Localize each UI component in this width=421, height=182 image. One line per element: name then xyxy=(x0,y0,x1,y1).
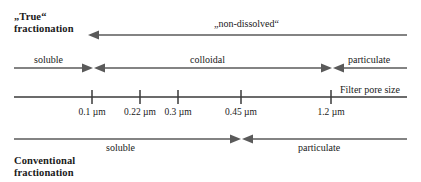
true-fractionation-title-line2: fractionation xyxy=(14,23,74,35)
segment-label-soluble-true: soluble xyxy=(34,54,63,66)
conventional-axis-line xyxy=(14,135,407,144)
filter-pore-size-caption: Filter pore size xyxy=(340,84,400,96)
true-fractionation-title: „True“ fractionation xyxy=(14,11,74,35)
non-dissolved-label: „non-dissolved“ xyxy=(214,18,279,30)
segment-label-particulate-conventional: particulate xyxy=(298,142,340,154)
tick-label-0-3: 0.3 µm xyxy=(154,107,202,118)
tick-label-0-1: 0.1 µm xyxy=(68,107,116,118)
segment-label-soluble-conventional: soluble xyxy=(106,142,135,154)
segment-label-particulate-true: particulate xyxy=(348,54,390,66)
conventional-fractionation-title: Conventional fractionation xyxy=(14,155,75,179)
fractionation-diagram: „True“ fractionation „non-dissolved“ sol… xyxy=(0,0,421,182)
segment-label-colloidal: colloidal xyxy=(190,54,225,66)
conventional-fractionation-title-line1: Conventional xyxy=(14,155,75,167)
true-fractionation-title-line1: „True“ xyxy=(14,11,74,23)
tick-label-0-45: 0.45 µm xyxy=(215,107,267,118)
conventional-fractionation-title-line2: fractionation xyxy=(14,167,75,179)
non-dissolved-arrow xyxy=(88,31,407,40)
tick-label-1-2: 1.2 µm xyxy=(306,107,356,118)
